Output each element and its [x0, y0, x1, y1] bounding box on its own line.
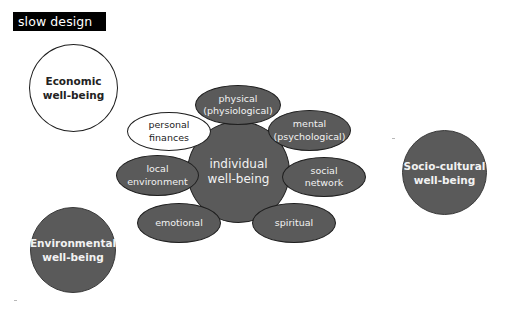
mental-label-line1: mental [293, 118, 326, 131]
center-label-line2: well-being [208, 172, 270, 187]
physical-petal: physical (physiological) [195, 85, 281, 125]
social-label-line2: network [305, 177, 344, 190]
diagram-title: slow design [13, 12, 106, 31]
social-label-line1: social [310, 165, 337, 178]
economic-label-line2: well-being [43, 88, 105, 102]
environmental-label-line2: well-being [42, 250, 104, 264]
scan-speck [14, 300, 17, 301]
spiritual-petal: spiritual [252, 203, 336, 243]
local-environment-petal: local environment [116, 155, 199, 196]
physical-label-line1: physical [219, 93, 258, 106]
emotional-petal: emotional [137, 203, 221, 243]
social-network-petal: social network [282, 157, 366, 197]
emotional-label: emotional [155, 217, 203, 230]
local-env-label-line2: environment [127, 176, 188, 189]
spiritual-label: spiritual [275, 217, 313, 230]
local-env-label-line1: local [146, 163, 168, 176]
center-label-line1: individual [209, 157, 267, 172]
economic-wellbeing-circle: Economic well-being [29, 44, 118, 132]
scan-speck [392, 138, 395, 139]
socio-cultural-label-line2: well-being [414, 173, 476, 187]
mental-label-line2: (psychological) [274, 131, 346, 144]
socio-cultural-wellbeing-circle: Socio-cultural well-being [402, 130, 487, 215]
socio-cultural-label-line1: Socio-cultural [404, 159, 486, 173]
mental-petal: mental (psychological) [268, 110, 351, 151]
personal-finances-label-line1: personal [148, 119, 189, 132]
physical-label-line2: (physiological) [203, 105, 272, 118]
personal-finances-label-line2: finances [149, 132, 189, 145]
environmental-label-line1: Environmental [30, 236, 116, 250]
economic-label-line1: Economic [45, 74, 101, 88]
personal-finances-petal: personal finances [127, 112, 211, 151]
environmental-wellbeing-circle: Environmental well-being [30, 207, 116, 293]
